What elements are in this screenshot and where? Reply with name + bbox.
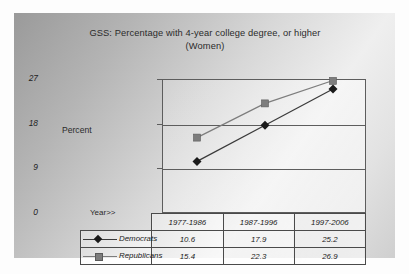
republicans-legend-marker — [83, 252, 117, 261]
y-axis-tick-18: 18 — [0, 118, 38, 128]
cell-republicans-3: 26.9 — [294, 248, 365, 265]
legend-item-democrats: Democrats — [81, 231, 152, 248]
chart-title-line-2: (Women) — [42, 40, 368, 53]
data-table: 1977-1986 1987-1996 1997-2006 Democrats … — [80, 213, 366, 265]
series-name-democrats: Democrats — [119, 234, 157, 243]
chart-title: GSS: Percentage with 4-year college degr… — [42, 27, 368, 52]
democrats-legend-marker — [83, 235, 117, 244]
table-row: Republicans 15.4 22.3 26.9 — [81, 248, 366, 265]
y-axis-tick-27: 27 — [0, 73, 38, 83]
table-header-period-1: 1977-1986 — [152, 214, 223, 231]
y-axis-tick-9: 9 — [0, 162, 38, 172]
table-header-period-2: 1987-1996 — [223, 214, 294, 231]
table-header-row: 1977-1986 1987-1996 1997-2006 — [81, 214, 366, 231]
cell-democrats-3: 25.2 — [294, 231, 365, 248]
cell-republicans-2: 22.3 — [223, 248, 294, 265]
table-corner-cell — [81, 214, 152, 231]
chart-title-line-1: GSS: Percentage with 4-year college degr… — [42, 27, 368, 40]
y-axis-label: Percent — [62, 125, 92, 135]
slide-canvas: GSS: Percentage with 4-year college degr… — [0, 0, 409, 274]
y-axis-tick-0: 0 — [0, 207, 38, 217]
cell-democrats-2: 17.9 — [223, 231, 294, 248]
cell-democrats-1: 10.6 — [152, 231, 223, 248]
series-lines — [163, 80, 367, 214]
cell-republicans-1: 15.4 — [152, 248, 223, 265]
table-row: Democrats 10.6 17.9 25.2 — [81, 231, 366, 248]
series-name-republicans: Republicans — [119, 251, 162, 260]
legend-item-republicans: Republicans — [81, 248, 152, 265]
table-header-period-3: 1997-2006 — [294, 214, 365, 231]
plot-area — [162, 79, 366, 213]
democrats-markers — [193, 85, 338, 166]
chart-panel: GSS: Percentage with 4-year college degr… — [14, 13, 395, 258]
